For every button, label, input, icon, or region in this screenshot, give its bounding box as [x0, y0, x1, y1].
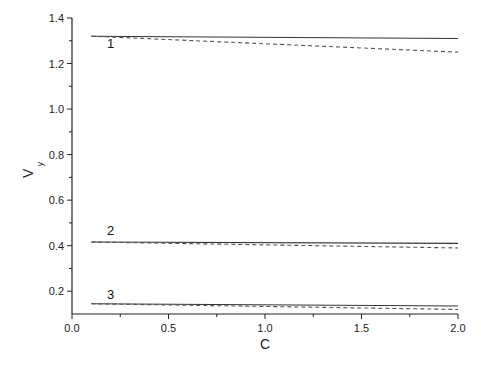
- y-tick-label: 0.6: [49, 194, 64, 206]
- series-line-5: [91, 304, 458, 306]
- series-group: [91, 36, 458, 309]
- svg-text:Vy: Vy: [20, 162, 45, 178]
- x-tick-label: 1.0: [257, 322, 272, 334]
- axes: 0.00.51.01.52.00.20.40.60.81.01.21.4: [49, 12, 466, 334]
- x-tick-label: 1.5: [354, 322, 369, 334]
- series-line-1: [91, 36, 458, 38]
- curve-label-2: 2: [107, 223, 114, 238]
- chart: 0.00.51.01.52.00.20.40.60.81.01.21.4 123…: [0, 0, 481, 375]
- y-tick-label: 0.2: [49, 285, 64, 297]
- curve-label-1: 1: [107, 36, 114, 51]
- x-axis-title: C: [260, 336, 270, 352]
- y-tick-label: 1.0: [49, 103, 64, 115]
- series-line-3: [91, 242, 458, 243]
- y-tick-label: 1.4: [49, 12, 64, 24]
- annotations-group: 123: [107, 36, 114, 303]
- y-axis-title-main: V: [20, 168, 36, 178]
- x-tick-label: 2.0: [450, 322, 465, 334]
- x-tick-label: 0.5: [161, 322, 176, 334]
- y-tick-label: 1.2: [49, 58, 64, 70]
- y-axis-title-subscript: y: [35, 162, 45, 167]
- y-tick-label: 0.8: [49, 149, 64, 161]
- y-tick-label: 0.4: [49, 240, 64, 252]
- y-axis-title: Vy: [20, 162, 45, 178]
- curve-label-3: 3: [107, 287, 114, 302]
- x-tick-label: 0.0: [64, 322, 79, 334]
